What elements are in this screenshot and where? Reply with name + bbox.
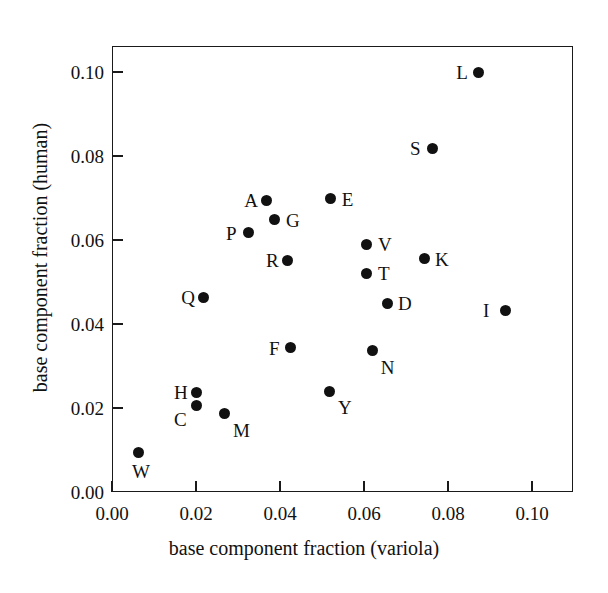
data-point-label: I (483, 301, 489, 320)
data-point-label: E (342, 190, 354, 209)
data-point-label: K (435, 250, 449, 269)
x-axis-tick (447, 481, 449, 492)
data-point-label: R (266, 251, 279, 270)
data-point-label: Q (181, 288, 195, 307)
data-point (473, 67, 484, 78)
x-axis-tick-label: 0.06 (329, 504, 399, 523)
y-axis-tick (112, 323, 123, 325)
data-point (191, 387, 202, 398)
data-point-label: D (398, 294, 412, 313)
y-axis-tick (112, 407, 123, 409)
x-axis-title: base component fraction (variola) (0, 537, 608, 560)
x-axis-tick-label: 0.10 (497, 504, 567, 523)
data-point (198, 292, 209, 303)
data-point-label: C (174, 410, 187, 429)
data-point (243, 227, 254, 238)
data-point-label: F (269, 339, 280, 358)
y-axis-title: base component fraction (human) (29, 28, 52, 488)
data-point (191, 400, 202, 411)
data-point-label: Y (338, 398, 352, 417)
data-point (500, 305, 511, 316)
data-point-label: H (174, 383, 188, 402)
x-axis-tick (531, 481, 533, 492)
data-point-label: M (233, 421, 250, 440)
data-point-label: T (378, 264, 390, 283)
data-point (419, 253, 430, 264)
x-axis-tick-label: 0.02 (161, 504, 231, 523)
x-axis-tick-label: 0.00 (77, 504, 147, 523)
data-point-label: W (132, 462, 150, 481)
data-point-label: V (378, 235, 392, 254)
data-point-label: P (226, 224, 237, 243)
x-axis-tick-label: 0.04 (245, 504, 315, 523)
data-point-label: S (410, 139, 421, 158)
data-point (382, 298, 393, 309)
data-point-label: L (456, 63, 468, 82)
y-axis-tick (112, 155, 123, 157)
data-point (427, 143, 438, 154)
x-axis-tick-label: 0.08 (413, 504, 483, 523)
x-axis-tick (279, 481, 281, 492)
data-point-label: A (244, 191, 258, 210)
scatter-plot-figure: 0.000.020.040.060.080.100.000.020.040.06… (0, 0, 608, 593)
x-axis-tick (195, 481, 197, 492)
x-axis-tick (363, 481, 365, 492)
data-point-label: G (286, 211, 300, 230)
data-point (133, 447, 144, 458)
data-point-label: N (381, 358, 395, 377)
x-axis-tick (111, 481, 113, 492)
y-axis-tick (112, 71, 123, 73)
y-axis-tick (112, 239, 123, 241)
data-point (261, 195, 272, 206)
